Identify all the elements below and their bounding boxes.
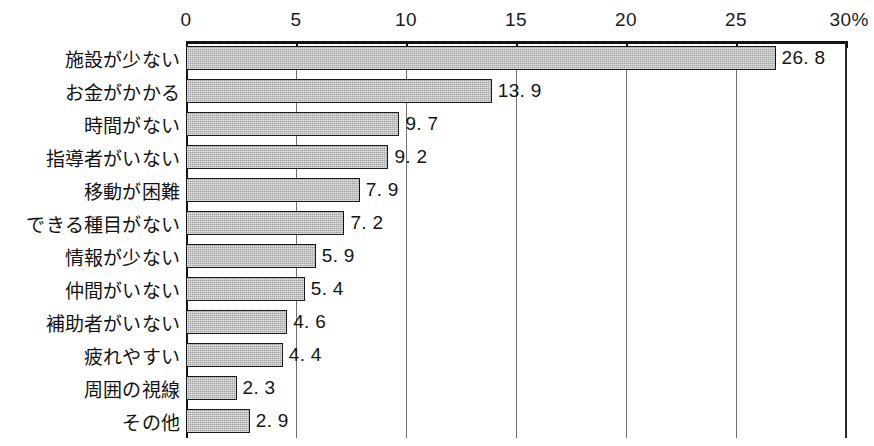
bar-value-label: 5. 9 — [322, 245, 355, 267]
bar — [186, 145, 388, 169]
bar-row: 周囲の視線2. 3 — [0, 371, 874, 404]
bar-row: できる種目がない7. 2 — [0, 206, 874, 239]
bar-row: 時間がない9. 7 — [0, 107, 874, 140]
bar-value-label: 26. 8 — [782, 47, 826, 69]
category-label: 周囲の視線 — [84, 374, 180, 401]
bar-value-label: 9. 2 — [394, 146, 427, 168]
bar-chart: 051015202530% 施設が少ない26. 8お金がかかる13. 9時間がな… — [0, 0, 874, 446]
bar-row: 情報が少ない5. 9 — [0, 239, 874, 272]
bar — [186, 46, 776, 70]
x-axis-tick-labels: 051015202530% — [0, 0, 874, 40]
bar — [186, 178, 360, 202]
category-label: その他 — [122, 407, 180, 434]
category-label: 指導者がいない — [46, 143, 180, 170]
bar-value-label: 9. 7 — [405, 113, 438, 135]
bar-row: 疲れやすい4. 4 — [0, 338, 874, 371]
bar-value-label: 7. 9 — [366, 179, 399, 201]
bar-row: 指導者がいない9. 2 — [0, 140, 874, 173]
bar-value-label: 13. 9 — [498, 80, 542, 102]
bar-row: 施設が少ない26. 8 — [0, 41, 874, 74]
bar-value-label: 2. 9 — [256, 410, 289, 432]
bar — [186, 244, 316, 268]
x-axis-tick-30: 30% — [829, 9, 869, 31]
bar-row: その他2. 9 — [0, 404, 874, 437]
x-axis-tick-0: 0 — [180, 9, 191, 31]
bar-row: 仲間がいない5. 4 — [0, 272, 874, 305]
bar-value-label: 7. 2 — [350, 212, 383, 234]
category-label: 時間がない — [84, 110, 180, 137]
category-label: 情報が少ない — [65, 242, 180, 269]
bar — [186, 343, 283, 367]
category-label: 施設が少ない — [65, 44, 180, 71]
bar — [186, 310, 287, 334]
bar-value-label: 2. 3 — [243, 377, 276, 399]
bar — [186, 376, 237, 400]
category-label: 移動が困難 — [84, 176, 180, 203]
bar-rows: 施設が少ない26. 8お金がかかる13. 9時間がない9. 7指導者がいない9.… — [0, 41, 874, 438]
x-axis-tick-25: 25 — [725, 9, 747, 31]
x-axis-tick-15: 15 — [505, 9, 527, 31]
bar-value-label: 4. 6 — [293, 311, 326, 333]
bar — [186, 277, 305, 301]
bar-row: 補助者がいない4. 6 — [0, 305, 874, 338]
category-label: できる種目がない — [26, 209, 180, 236]
x-axis-tick-5: 5 — [290, 9, 301, 31]
category-label: 補助者がいない — [46, 308, 180, 335]
bar — [186, 112, 399, 136]
bar — [186, 211, 344, 235]
category-label: 疲れやすい — [84, 341, 180, 368]
bar-value-label: 4. 4 — [289, 344, 322, 366]
bar-row: お金がかかる13. 9 — [0, 74, 874, 107]
category-label: 仲間がいない — [65, 275, 180, 302]
x-axis-tick-10: 10 — [395, 9, 417, 31]
category-label: お金がかかる — [65, 77, 180, 104]
bar-row: 移動が困難7. 9 — [0, 173, 874, 206]
bar-value-label: 5. 4 — [311, 278, 344, 300]
x-axis-tick-20: 20 — [615, 9, 637, 31]
bar — [186, 79, 492, 103]
bar — [186, 409, 250, 433]
